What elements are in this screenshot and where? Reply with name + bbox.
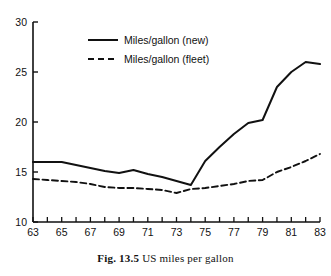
data-series-group bbox=[33, 62, 320, 193]
x-axis-tick-label: 65 bbox=[56, 226, 68, 238]
y-axis-tick-label: 25 bbox=[15, 66, 27, 78]
x-axis-tick-label: 71 bbox=[142, 226, 154, 238]
legend-label-new: Miles/gallon (new) bbox=[124, 34, 209, 46]
x-axis-tick-label: 69 bbox=[113, 226, 125, 238]
x-axis-tick-label: 77 bbox=[228, 226, 240, 238]
y-axis-tick-label: 20 bbox=[15, 116, 27, 128]
legend-label-fleet: Miles/gallon (fleet) bbox=[124, 53, 209, 65]
figure-caption: Fig. 13.5US miles per gallon bbox=[0, 252, 331, 264]
x-axis-tick-label: 79 bbox=[257, 226, 269, 238]
x-axis-tick-label: 67 bbox=[85, 226, 97, 238]
line-chart: 1015202530 6365676971737577798183 Miles/… bbox=[0, 0, 331, 250]
chart-legend: Miles/gallon (new)Miles/gallon (fleet) bbox=[88, 34, 209, 65]
x-axis-tick-label: 75 bbox=[199, 226, 211, 238]
y-axis-tick-label: 30 bbox=[15, 16, 27, 28]
x-axis-ticks bbox=[33, 217, 320, 222]
series-line-fleet bbox=[33, 154, 320, 193]
x-axis-tick-labels: 6365676971737577798183 bbox=[27, 226, 326, 238]
figure-container: 1015202530 6365676971737577798183 Miles/… bbox=[0, 0, 331, 276]
series-line-new bbox=[33, 62, 320, 185]
y-axis-tick-label: 15 bbox=[15, 166, 27, 178]
x-axis-tick-label: 83 bbox=[314, 226, 326, 238]
figure-number: Fig. 13.5 bbox=[97, 252, 139, 264]
x-axis-tick-label: 63 bbox=[27, 226, 39, 238]
x-axis-tick-label: 73 bbox=[171, 226, 183, 238]
figure-caption-text: US miles per gallon bbox=[142, 252, 233, 264]
x-axis-tick-label: 81 bbox=[285, 226, 297, 238]
y-axis-tick-label: 10 bbox=[15, 216, 27, 228]
y-axis-tick-labels: 1015202530 bbox=[15, 16, 27, 228]
